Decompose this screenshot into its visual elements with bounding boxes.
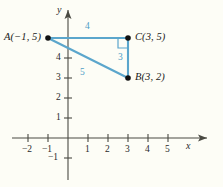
side-length-label-AB: 5 (80, 68, 85, 78)
vertex-point-C (125, 35, 131, 41)
y-tick-label--1: −1 (48, 153, 58, 163)
point-label-B: B(3, 2) (135, 72, 165, 83)
x-tick-label-5: 5 (165, 145, 170, 155)
coordinate-plane-figure: x y −2 −1 1 2 3 4 5 −1 1 2 3 4 A(−1, 5) … (0, 0, 223, 187)
x-tick-label--2: −2 (22, 145, 32, 155)
x-tick-label-3: 3 (125, 145, 130, 155)
x-tick-label-4: 4 (145, 145, 150, 155)
y-axis-name-label: y (57, 5, 61, 15)
point-label-A: A(−1, 5) (4, 32, 41, 43)
y-tick-label-1: 1 (56, 113, 61, 123)
vertex-point-A (45, 35, 51, 41)
y-tick-label-4: 4 (56, 53, 61, 63)
side-length-label-CB: 3 (118, 53, 123, 63)
figure-canvas (0, 0, 223, 187)
x-tick-label-1: 1 (85, 145, 90, 155)
x-axis-name-label: x (186, 141, 190, 151)
side-length-label-AC: 4 (85, 22, 90, 32)
y-tick-label-3: 3 (56, 73, 61, 83)
vertex-point-B (125, 75, 131, 81)
y-tick-label-2: 2 (56, 93, 61, 103)
x-tick-label-2: 2 (105, 145, 110, 155)
point-label-C: C(3, 5) (135, 32, 165, 43)
